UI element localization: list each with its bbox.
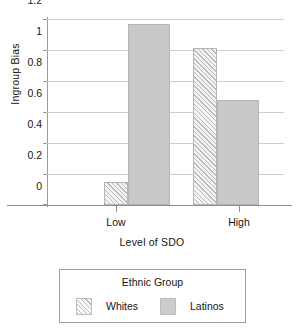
chart-legend: Ethnic Group Whites Latinos: [59, 269, 246, 323]
x-tick-mark-high: [239, 206, 240, 212]
legend-title: Ethnic Group: [60, 276, 245, 288]
y-axis-tick-labels: 0 0.2 0.4 0.6 0.8 1 1.2: [16, 0, 42, 186]
y-tick-label-1.2: 1.2: [18, 0, 42, 5]
legend-swatch-latinos-icon: [160, 298, 176, 315]
y-tick-mark-0.6: [43, 112, 47, 113]
bar-whites-low: [104, 182, 128, 205]
bar-whites-high: [193, 48, 217, 205]
y-tick-mark-0.2: [43, 174, 47, 175]
x-tick-mark-low: [116, 206, 117, 212]
legend-label-latinos: Latinos: [190, 300, 224, 312]
y-tick-mark-1.0: [43, 50, 47, 51]
y-tick-mark-1.2: [43, 19, 47, 20]
y-tick-label-0.4: 0.4: [18, 119, 42, 129]
y-tick-mark-0.4: [43, 143, 47, 144]
plot-area: [47, 19, 284, 205]
bar-chart-figure: Ingroup Bias 0 0.2 0.4 0.6 0.8 1 1.2: [0, 0, 304, 336]
bar-latinos-low: [128, 24, 170, 205]
x-tick-label-high: High: [209, 216, 269, 228]
y-tick-label-0.8: 0.8: [18, 57, 42, 67]
gridline-1.2: [47, 19, 284, 20]
bar-latinos-high: [217, 100, 259, 205]
y-tick-label-0.6: 0.6: [18, 88, 42, 98]
legend-label-whites: Whites: [106, 300, 138, 312]
chart-plot-region: Ingroup Bias 0 0.2 0.4 0.6 0.8 1 1.2: [0, 0, 304, 258]
legend-item-latinos: Latinos: [160, 297, 244, 317]
y-tick-label-0: 0: [18, 181, 42, 191]
y-tick-label-1: 1: [18, 26, 42, 36]
y-tick-label-0.2: 0.2: [18, 150, 42, 160]
y-tick-mark-0.8: [43, 81, 47, 82]
x-axis-label: Level of SDO: [0, 236, 304, 248]
x-tick-label-low: Low: [86, 216, 146, 228]
legend-item-whites: Whites: [76, 297, 156, 317]
legend-entries: Whites Latinos: [60, 297, 245, 319]
x-axis-line: [7, 205, 292, 206]
legend-swatch-whites-icon: [76, 298, 92, 315]
y-tick-mark-0: [43, 204, 47, 205]
